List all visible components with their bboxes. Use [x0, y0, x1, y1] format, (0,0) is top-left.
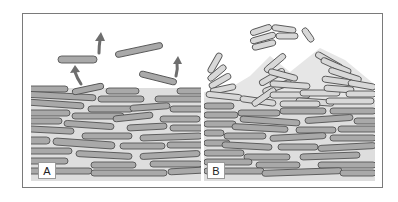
- panel-b-label: B: [212, 165, 219, 177]
- diagram-figure: A: [0, 0, 398, 202]
- diagram-canvas: A: [0, 0, 398, 202]
- panel-a-label: A: [43, 165, 51, 177]
